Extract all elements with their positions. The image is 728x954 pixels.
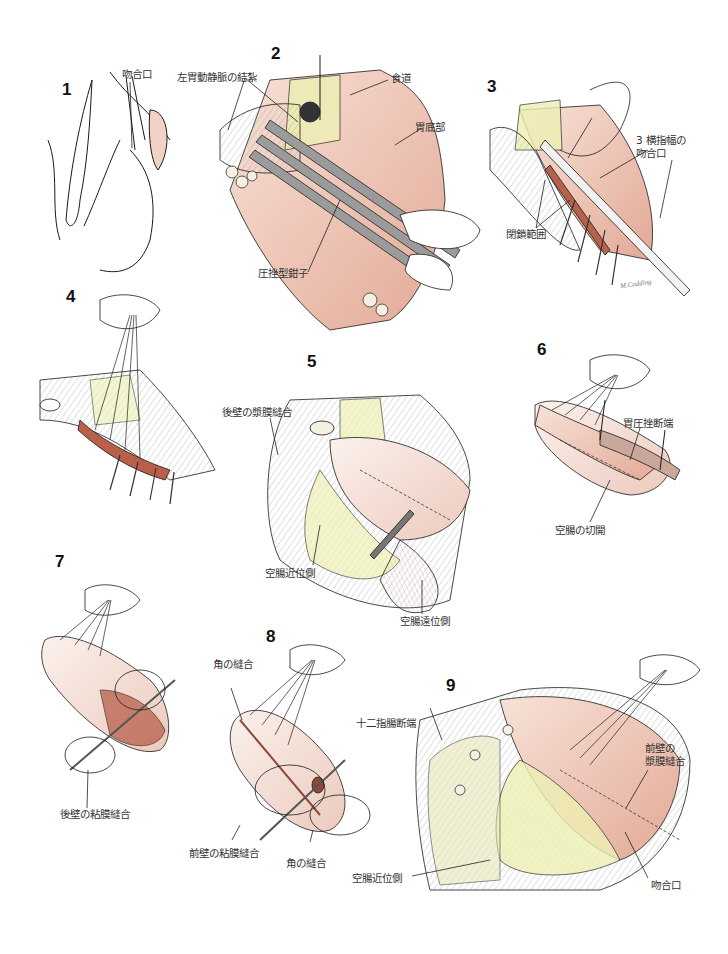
label-anterior-mucosal-suture: 前壁の粘膜縫合 — [189, 847, 259, 860]
label-anastomosis-1: 吻合口 — [122, 68, 152, 81]
panel-9-drawing — [416, 655, 700, 890]
label-distal-jejunum: 空腸遠位側 — [400, 615, 450, 628]
panel-number-5: 5 — [307, 352, 316, 372]
label-anastomosis-9: 吻合口 — [651, 879, 681, 892]
panel-number-8: 8 — [266, 627, 275, 647]
label-proximal-jejunum-9: 空腸近位側 — [352, 872, 402, 885]
panel-7-drawing — [42, 585, 175, 773]
label-left-gastric-ligation: 左胃動静脈の結紮 — [177, 71, 257, 84]
label-anterior-serosal-suture: 前壁の 漿膜縫合 — [645, 742, 685, 768]
panel-number-6: 6 — [537, 340, 546, 360]
panel-4-drawing — [40, 295, 215, 504]
panel-3-drawing — [490, 82, 690, 296]
label-corner-suture-bottom: 角の縫合 — [286, 857, 326, 870]
panel-5-drawing — [268, 395, 470, 613]
panel-number-7: 7 — [55, 552, 64, 572]
label-crushing-clamp: 圧挫型鉗子 — [258, 267, 308, 280]
label-crushed-gastric-end: 胃圧挫断端 — [623, 417, 673, 430]
panel-2-drawing — [220, 55, 480, 330]
label-gastric-fundus: 胃底部 — [415, 121, 445, 134]
label-posterior-serosal-suture: 後壁の漿膜縫合 — [222, 406, 292, 419]
label-esophagus: 食道 — [391, 72, 411, 85]
label-posterior-mucosal-suture: 後壁の粘膜縫合 — [60, 808, 130, 821]
panel-number-9: 9 — [446, 676, 455, 696]
label-proximal-jejunum-5: 空腸近位側 — [265, 567, 315, 580]
panel-number-4: 4 — [66, 287, 75, 307]
label-jejunal-incision: 空腸の切開 — [555, 524, 605, 537]
panel-number-2: 2 — [271, 44, 280, 64]
panel-number-3: 3 — [487, 77, 496, 97]
panel-number-1: 1 — [62, 80, 71, 100]
panel-1-drawing — [48, 72, 170, 272]
label-closure-range: 閉鎖範囲 — [506, 228, 546, 241]
label-three-finger-anastomosis: 3 横指幅の 吻合口 — [636, 134, 686, 160]
label-duodenal-stump: 十二指腸断端 — [356, 717, 416, 730]
surgical-illustration-figure: 1 2 3 4 5 6 7 8 9 吻合口 左胃動静脈の結紮 食道 胃底部 圧挫… — [0, 0, 728, 954]
label-corner-suture-top: 角の縫合 — [213, 658, 253, 671]
panel-8-drawing — [230, 645, 370, 840]
